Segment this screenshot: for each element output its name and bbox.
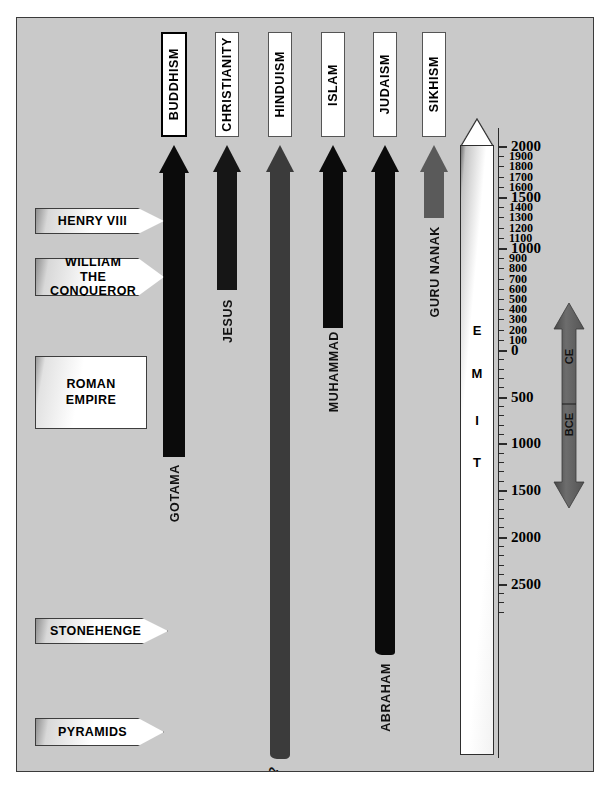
axis-tick	[498, 565, 504, 566]
axis-tick	[498, 490, 507, 492]
axis-tick	[498, 415, 504, 416]
time-letter-e: E	[473, 323, 482, 338]
arrow-shaft	[217, 171, 237, 290]
founder-name-abraham: ABRAHAM	[379, 663, 393, 732]
axis-tick	[498, 166, 504, 167]
axis-tick	[498, 387, 504, 388]
religion-label-text: CHRISTIANITY	[220, 37, 234, 132]
axis-tick	[498, 299, 504, 300]
event-banner-william-the-conqueror: WILLIAM THE CONQUEROR	[35, 258, 164, 296]
axis-tick-label: 500	[511, 388, 534, 405]
axis-tick	[498, 527, 504, 528]
religion-label-text: BUDDHISM	[167, 48, 181, 120]
time-arrow-bar	[460, 145, 494, 755]
axis-tick	[498, 537, 507, 539]
religion-arrow-judaism	[375, 145, 395, 655]
axis-tick	[498, 340, 504, 341]
axis-tick-label: 1500	[511, 482, 541, 499]
event-banner-stonehenge: STONEHENGE	[35, 618, 168, 644]
axis-tick	[498, 217, 504, 218]
religion-arrow-sikhism	[424, 145, 444, 218]
arrow-head-icon	[159, 145, 189, 173]
arrow-shaft	[424, 171, 444, 218]
event-label: PYRAMIDS	[36, 725, 163, 740]
axis-tick	[498, 350, 507, 352]
religion-arrow-christianity	[217, 145, 237, 290]
axis-tick	[498, 207, 504, 208]
axis-tick-label: 1000	[511, 435, 541, 452]
religion-label-islam: ISLAM	[321, 32, 345, 137]
event-label: HENRY VIII	[36, 214, 163, 229]
arrow-shaft	[375, 171, 395, 655]
axis-tick	[498, 425, 504, 426]
religion-label-judaism: JUDAISM	[373, 32, 397, 137]
era-label-bce: BCE	[563, 413, 575, 436]
axis-tick	[498, 309, 504, 310]
event-box-roman-empire: ROMAN EMPIRE	[35, 356, 147, 429]
axis-tick	[498, 499, 504, 500]
axis-tick	[498, 177, 504, 178]
axis-tick	[498, 612, 504, 613]
arrow-shaft	[323, 171, 343, 328]
era-label-ce: CE	[563, 349, 575, 364]
axis-tick	[498, 481, 504, 482]
religion-label-text: SIKHISM	[427, 56, 441, 112]
axis-tick	[498, 279, 504, 280]
event-label: WILLIAM THE CONQUEROR	[36, 255, 164, 299]
religion-label-hinduism: HINDUISM	[268, 32, 292, 137]
axis-tick	[498, 359, 504, 360]
axis-tick	[498, 319, 504, 320]
time-letter-i: I	[475, 413, 479, 428]
axis-tick	[498, 248, 507, 250]
axis-tick	[498, 462, 504, 463]
era-arrow-shape-icon	[552, 303, 586, 508]
axis-tick	[498, 187, 504, 188]
axis-tick	[498, 228, 504, 229]
axis-tick	[498, 509, 504, 510]
axis-tick	[498, 518, 504, 519]
axis-tick	[498, 574, 504, 575]
axis-tick	[498, 397, 507, 399]
axis-tick	[498, 289, 504, 290]
event-banner-pyramids: PYRAMIDS	[35, 718, 164, 746]
arrow-head-icon	[371, 145, 399, 172]
event-label: STONEHENGE	[36, 624, 169, 639]
religion-label-text: HINDUISM	[273, 51, 287, 118]
axis-tick-label: 0	[511, 342, 519, 359]
arrow-head-icon	[420, 145, 448, 172]
religion-arrow-islam	[323, 145, 343, 328]
religion-label-sikhism: SIKHISM	[422, 32, 446, 137]
religion-label-christianity: CHRISTIANITY	[215, 32, 239, 137]
arrow-shaft	[163, 172, 185, 457]
arrow-head-icon	[213, 145, 241, 172]
axis-tick	[498, 156, 504, 157]
axis-tick	[498, 258, 504, 259]
religion-label-text: JUDAISM	[378, 54, 392, 114]
axis-tick	[498, 453, 504, 454]
axis-tick	[498, 238, 504, 239]
founder-name-guru-nanak: GURU NANAK	[428, 226, 442, 317]
era-arrow: CE BCE	[552, 303, 586, 508]
axis-tick	[498, 330, 504, 331]
axis-tick	[498, 471, 504, 472]
religion-label-text: ISLAM	[326, 64, 340, 106]
axis-tick-label: 2500	[511, 575, 541, 592]
religion-arrow-buddhism	[163, 145, 185, 457]
founder-name-jesus: JESUS	[221, 299, 235, 343]
axis-tick	[498, 268, 504, 269]
religion-label-buddhism: BUDDHISM	[161, 32, 187, 137]
axis-tick	[498, 546, 504, 547]
time-arrow-head-outline-icon	[460, 118, 494, 147]
axis-tick	[498, 602, 504, 603]
axis-tick	[498, 434, 504, 435]
axis-tick	[498, 555, 504, 556]
arrow-head-icon	[266, 145, 294, 172]
time-arrow: E M I T	[460, 118, 494, 755]
diagram-panel: BUDDHISM CHRISTIANITY HINDUISM ISLAM JUD…	[16, 17, 594, 772]
axis-tick-label: 2000	[511, 528, 541, 545]
timeline-diagram: BUDDHISM CHRISTIANITY HINDUISM ISLAM JUD…	[0, 0, 613, 793]
axis-tick	[498, 443, 507, 445]
axis-tick	[498, 593, 504, 594]
founder-name-hinduism-unknown: ?	[266, 767, 281, 772]
event-banner-henry-viii: HENRY VIII	[35, 208, 164, 234]
